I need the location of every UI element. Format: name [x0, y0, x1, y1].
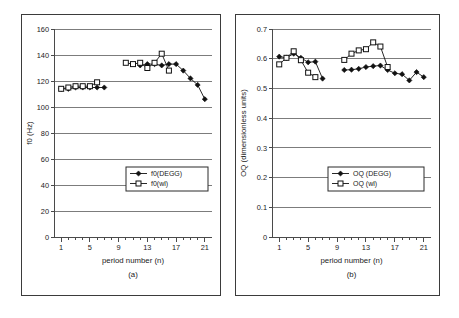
panel-a-plot: 020406080100120140160159131721f0 (Hz)per… — [22, 15, 220, 295]
y-axis-title: f0 (Hz) — [25, 121, 34, 145]
figure-container: 020406080100120140160159131721f0 (Hz)per… — [0, 0, 459, 318]
data-point-wl — [349, 51, 354, 56]
data-point-degg — [159, 63, 164, 68]
x-tick-label-3: 13 — [143, 243, 151, 252]
y-tick-label-1: 20 — [41, 207, 49, 216]
data-point-wl — [298, 58, 303, 63]
x-tick-label-1: 5 — [88, 243, 92, 252]
legend[interactable]: f0(DEGG)f0(wl) — [126, 167, 208, 191]
data-point-wl — [306, 70, 311, 75]
data-point-wl — [159, 51, 164, 56]
data-point-degg — [421, 75, 426, 80]
legend-label-0: f0(DEGG) — [151, 170, 182, 178]
data-point-degg — [378, 63, 383, 68]
x-tick-label-5: 21 — [201, 243, 209, 252]
y-tick-label-2: 0.2 — [257, 173, 267, 182]
data-point-degg — [320, 76, 325, 81]
y-tick-label-6: 0.6 — [257, 54, 267, 63]
data-point-degg — [363, 64, 368, 69]
panel-b-plot: 00.10.20.30.40.50.60.7159131721OQ (dimen… — [236, 15, 439, 295]
legend[interactable]: OQ (DEGG)OQ (wl) — [328, 167, 424, 191]
y-tick-label-3: 0.3 — [257, 144, 267, 153]
data-point-degg — [392, 71, 397, 76]
y-tick-label-8: 160 — [37, 25, 49, 34]
panel-b: 00.10.20.30.40.50.60.7159131721OQ (dimen… — [235, 14, 440, 296]
series-wl — [277, 40, 390, 80]
data-point-wl — [131, 62, 136, 67]
data-point-wl — [123, 60, 128, 65]
data-point-degg — [94, 85, 99, 90]
data-point-degg — [371, 64, 376, 69]
data-point-degg — [202, 97, 207, 102]
data-point-wl — [371, 40, 376, 45]
panel-caption: (b) — [347, 270, 357, 279]
series-degg — [59, 62, 208, 102]
data-point-wl — [284, 55, 289, 60]
data-point-wl — [87, 84, 92, 89]
data-point-wl — [138, 60, 143, 65]
y-tick-label-7: 0.7 — [257, 25, 267, 34]
x-tick-label-4: 17 — [172, 243, 180, 252]
data-point-wl — [277, 62, 282, 67]
data-point-degg — [349, 67, 354, 72]
data-point-wl — [66, 85, 71, 90]
data-point-wl — [80, 84, 85, 89]
data-point-wl — [152, 60, 157, 65]
data-point-degg — [306, 60, 311, 65]
y-tick-label-4: 0.4 — [257, 114, 267, 123]
data-point-wl — [59, 86, 64, 91]
panel-caption: (a) — [128, 270, 138, 279]
data-point-wl — [356, 48, 361, 53]
series-line-0-1 — [344, 66, 424, 81]
y-tick-label-5: 100 — [37, 103, 49, 112]
data-point-wl — [363, 47, 368, 52]
legend-label-1: f0(wl) — [151, 180, 168, 188]
y-tick-label-0: 0 — [263, 233, 267, 242]
y-tick-label-1: 0.1 — [257, 203, 267, 212]
data-point-wl — [385, 65, 390, 70]
data-point-wl — [145, 66, 150, 71]
data-point-wl — [342, 57, 347, 62]
y-tick-label-0: 0 — [45, 233, 49, 242]
y-tick-label-3: 60 — [41, 155, 49, 164]
series-wl — [59, 51, 172, 91]
data-point-wl — [73, 84, 78, 89]
data-point-degg — [313, 59, 318, 64]
x-tick-label-2: 9 — [117, 243, 121, 252]
chart-b-svg: 00.10.20.30.40.50.60.7159131721OQ (dimen… — [236, 15, 439, 295]
legend-marker-open-square-icon — [136, 181, 141, 186]
y-axis-title: OQ (dimensionless units) — [239, 89, 248, 177]
y-tick-label-5: 0.5 — [257, 84, 267, 93]
data-point-wl — [95, 80, 100, 85]
data-point-degg — [102, 85, 107, 90]
x-tick-label-0: 1 — [277, 243, 281, 252]
chart-a-svg: 020406080100120140160159131721f0 (Hz)per… — [22, 15, 220, 295]
data-point-wl — [291, 49, 296, 54]
data-point-wl — [378, 44, 383, 49]
y-tick-label-6: 120 — [37, 77, 49, 86]
data-point-wl — [166, 68, 171, 73]
legend-marker-open-square-icon — [338, 181, 343, 186]
legend-label-1: OQ (wl) — [353, 180, 377, 188]
legend-label-0: OQ (DEGG) — [353, 170, 391, 178]
x-tick-label-5: 21 — [420, 243, 428, 252]
x-axis-title: period number (n) — [321, 256, 383, 265]
y-tick-label-2: 40 — [41, 181, 49, 190]
panel-a: 020406080100120140160159131721f0 (Hz)per… — [21, 14, 221, 296]
data-point-wl — [313, 75, 318, 80]
y-tick-label-7: 140 — [37, 51, 49, 60]
x-tick-label-3: 13 — [362, 243, 370, 252]
x-tick-label-2: 9 — [335, 243, 339, 252]
data-point-degg — [356, 66, 361, 71]
x-tick-label-4: 17 — [391, 243, 399, 252]
data-point-degg — [342, 67, 347, 72]
y-tick-label-4: 80 — [41, 129, 49, 138]
x-tick-label-1: 5 — [306, 243, 310, 252]
x-tick-label-0: 1 — [59, 243, 63, 252]
x-axis-title: period number (n) — [102, 256, 164, 265]
